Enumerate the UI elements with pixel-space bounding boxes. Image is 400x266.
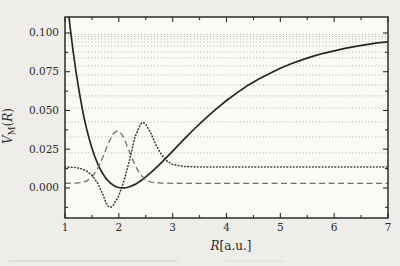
y-axis-label-argument: R <box>1 113 15 122</box>
y-tick-label: 0.025 <box>29 143 59 155</box>
x-tick-label: 7 <box>385 221 392 233</box>
x-tick-label: 2 <box>115 221 122 233</box>
y-axis-label-symbol: V <box>1 135 15 144</box>
x-axis-label: R[a.u.] <box>196 240 266 252</box>
scan-artifact <box>8 260 178 262</box>
scan-artifact <box>226 260 284 262</box>
y-axis-label-paren-close: ) <box>1 108 15 113</box>
x-axis-label-symbol: R <box>211 239 220 253</box>
y-tick-label: 0.075 <box>29 65 59 77</box>
x-tick-label: 5 <box>277 221 284 233</box>
y-tick-label: 0.050 <box>29 104 59 116</box>
x-tick-label: 6 <box>331 221 338 233</box>
x-axis-label-unit: [a.u.] <box>220 239 252 253</box>
y-tick-label: 0.000 <box>29 181 59 193</box>
x-tick-label: 3 <box>169 221 176 233</box>
y-axis-label-paren-open: ( <box>1 122 15 127</box>
y-axis-label: VM(R) <box>2 86 16 166</box>
morse-potential-figure: 12345670.0000.0250.0500.0750.100 VM(R) R… <box>0 0 400 266</box>
plot-area <box>65 17 388 218</box>
x-tick-label: 1 <box>62 221 69 233</box>
plot-canvas: 12345670.0000.0250.0500.0750.100 <box>0 0 400 266</box>
y-axis-label-subscript: M <box>7 127 17 136</box>
x-tick-label: 4 <box>223 221 230 233</box>
y-tick-label: 0.100 <box>29 26 59 38</box>
